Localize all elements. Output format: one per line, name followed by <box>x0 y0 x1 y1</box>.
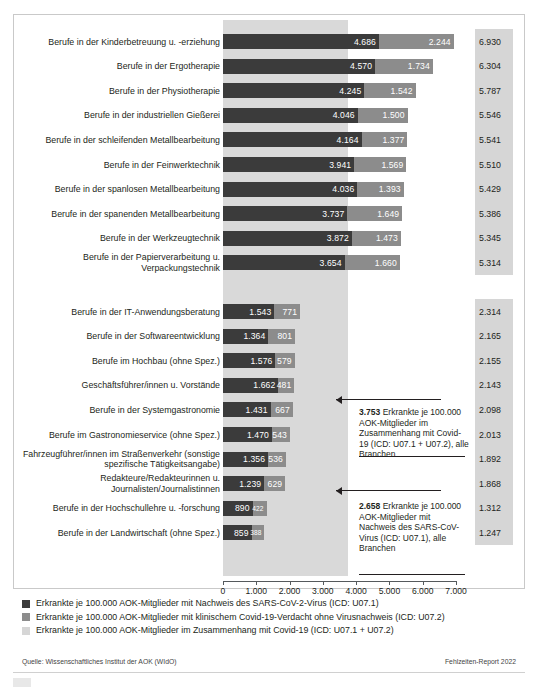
bar-segment-u072: 1.649 <box>347 206 402 221</box>
bar-value-u072: 1.542 <box>391 86 413 96</box>
table-row: 4.0361.393 <box>223 182 404 197</box>
category-label: Berufe in der industriellen Gießerei <box>22 110 220 120</box>
table-row: 1.662481 <box>223 378 294 393</box>
bar-segment-u071: 1.470 <box>223 427 272 442</box>
bar-segment-u072: 579 <box>275 353 294 368</box>
bar-value-u071: 1.239 <box>239 479 261 489</box>
bar-value-u071: 4.245 <box>339 86 361 96</box>
bar-value-u071: 4.686 <box>354 37 376 47</box>
bar-segment-u072: 2.244 <box>379 34 454 49</box>
bar-segment-u071: 1.543 <box>223 304 274 319</box>
table-row: 1.543771 <box>223 304 300 319</box>
footer-row: Quelle: Wissenschaftliches Institut der … <box>22 658 516 665</box>
bar-value-u072: 422 <box>252 505 263 512</box>
table-row: 4.2451.542 <box>223 83 416 98</box>
axis-tick-label: 3.000 <box>312 586 334 596</box>
bar-segment-u072: 1.542 <box>364 83 415 98</box>
category-labels: Berufe in der Kinderbetreuung u. -erzieh… <box>22 34 220 590</box>
chart-card: 4.6862.2444.5701.7344.2451.5424.0461.500… <box>13 14 525 589</box>
bar-value-u071: 1.364 <box>243 331 265 341</box>
bar-value-u072: 1.377 <box>382 135 404 145</box>
bar-segment-u072: 801 <box>268 329 295 344</box>
total-values-column: 6.9306.3045.7875.5465.5415.5105.4295.386… <box>475 34 519 590</box>
bar-segment-u071: 3.737 <box>223 206 347 221</box>
total-value: 2.013 <box>475 430 513 440</box>
bar-segment-u071: 4.036 <box>223 182 357 197</box>
footer-divider <box>13 672 525 673</box>
table-row: 1.356536 <box>223 452 286 467</box>
bar-value-u071: 1.576 <box>250 356 272 366</box>
annotation-3753-underline <box>359 456 465 457</box>
bar-value-u072: 1.393 <box>379 184 401 194</box>
bar-value-u071: 1.543 <box>249 307 271 317</box>
total-value: 2.155 <box>475 356 513 366</box>
table-row: 4.1641.377 <box>223 132 407 147</box>
total-value: 5.546 <box>475 110 513 120</box>
legend-item-u072: Erkrankte je 100.000 AOK-Mitglieder mit … <box>22 612 522 623</box>
table-row: 890422 <box>223 501 267 516</box>
bar-value-u071: 4.046 <box>333 110 355 120</box>
bar-value-u071: 3.654 <box>320 258 342 268</box>
bar-segment-u071: 1.431 <box>223 402 271 417</box>
total-value: 5.345 <box>475 233 513 243</box>
category-label: Berufe in der IT-Anwendungsberatung <box>22 307 220 317</box>
total-value: 2.143 <box>475 380 513 390</box>
legend-swatch-icon-u071 <box>22 600 30 608</box>
annotation-2658-underline <box>359 574 465 575</box>
bar-segment-u072: 1.377 <box>362 132 408 147</box>
bar-segment-u072: 536 <box>268 452 286 467</box>
bar-value-u072: 579 <box>277 356 292 366</box>
bar-value-u072: 1.734 <box>408 61 430 71</box>
category-label: Berufe in der Systemgastronomie <box>22 405 220 415</box>
bar-segment-u072: 1.569 <box>354 157 406 172</box>
axis-tick <box>223 581 224 585</box>
bar-segment-u071: 859 <box>223 525 252 540</box>
bar-segment-u072: 667 <box>271 402 293 417</box>
bar-segment-u071: 3.872 <box>223 231 352 246</box>
category-label: Berufe in der Ergotherapie <box>22 61 220 71</box>
bar-value-u071: 4.570 <box>350 61 372 71</box>
total-value: 5.541 <box>475 135 513 145</box>
arrow-line <box>336 490 441 491</box>
bar-segment-u071: 4.245 <box>223 83 364 98</box>
category-label: Berufe in der Hochschullehre u. -forschu… <box>22 503 220 513</box>
bar-value-u071: 1.662 <box>253 380 275 390</box>
bar-segment-u071: 4.164 <box>223 132 362 147</box>
bar-segment-u071: 3.941 <box>223 157 354 172</box>
bar-segment-u071: 890 <box>223 501 253 516</box>
category-label: Berufe in der Feinwerktechnik <box>22 160 220 170</box>
bar-segment-u072: 1.734 <box>375 59 433 74</box>
legend-label-total: Erkrankte je 100.000 AOK-Mitglieder im Z… <box>36 625 394 636</box>
category-label: Berufe in der Landwirtschaft (ohne Spez.… <box>22 528 220 538</box>
annotation-3753-value: 3.753 <box>359 407 380 417</box>
total-value: 6.930 <box>475 37 513 47</box>
table-row: 4.5701.734 <box>223 59 433 74</box>
source-note: Quelle: Wissenschaftliches Institut der … <box>22 658 177 665</box>
bar-value-u071: 1.470 <box>247 430 269 440</box>
bar-segment-u072: 1.473 <box>352 231 401 246</box>
bar-segment-u072: 422 <box>253 501 267 516</box>
category-label: Berufe in der Softwareentwicklung <box>22 331 220 341</box>
legend: Erkrankte je 100.000 AOK-Mitglieder mit … <box>22 598 522 639</box>
legend-swatch-icon-u072 <box>22 613 30 621</box>
total-value: 6.304 <box>475 61 513 71</box>
table-row: 1.239629 <box>223 476 285 491</box>
bar-segment-u071: 4.046 <box>223 108 358 123</box>
arrow-line <box>336 399 441 400</box>
axis-tick <box>389 581 390 585</box>
axis-line <box>223 581 456 582</box>
total-value: 2.165 <box>475 331 513 341</box>
bar-value-u071: 4.164 <box>337 135 359 145</box>
total-value: 1.868 <box>475 479 513 489</box>
axis-tick-label: 4.000 <box>345 586 367 596</box>
axis-tick <box>290 581 291 585</box>
axis-tick <box>456 581 457 585</box>
category-label: Berufe in der schleifenden Metallbearbei… <box>22 135 220 145</box>
legend-label-u072: Erkrankte je 100.000 AOK-Mitglieder mit … <box>36 612 445 623</box>
table-row: 1.576579 <box>223 353 295 368</box>
bar-value-u071: 1.431 <box>246 405 268 415</box>
bar-segment-u072: 388 <box>252 525 265 540</box>
bar-segment-u072: 1.500 <box>358 108 408 123</box>
category-label: Fahrzeugführer/innen im Straßenverkehr (… <box>22 449 220 470</box>
bar-value-u071: 859 <box>234 528 249 538</box>
